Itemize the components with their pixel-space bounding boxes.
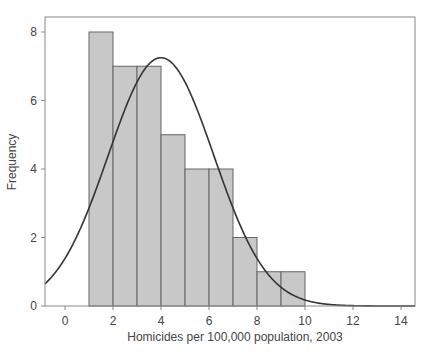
histogram-bar: [89, 32, 113, 306]
histogram-bar: [113, 66, 137, 306]
x-tick-label: 4: [158, 314, 165, 328]
x-axis-label: Homicides per 100,000 population, 2003: [127, 330, 343, 344]
x-tick-label: 12: [346, 314, 360, 328]
y-tick-label: 2: [30, 231, 37, 245]
histogram-bar: [161, 135, 185, 306]
y-tick-label: 6: [30, 94, 37, 108]
histogram-bar: [257, 272, 281, 306]
x-tick-label: 0: [62, 314, 69, 328]
x-tick-label: 2: [110, 314, 117, 328]
histogram-bar: [233, 238, 257, 307]
histogram-chart: 02468101214 02468 Homicides per 100,000 …: [0, 0, 430, 356]
y-tick-label: 4: [30, 162, 37, 176]
histogram-bars: [89, 32, 305, 306]
y-tick-label: 8: [30, 25, 37, 39]
histogram-bar: [185, 169, 209, 306]
x-tick-label: 14: [394, 314, 408, 328]
x-tick-label: 6: [206, 314, 213, 328]
y-tick-label: 0: [30, 299, 37, 313]
histogram-bar: [209, 169, 233, 306]
histogram-bar: [137, 66, 161, 306]
x-axis-ticks: 02468101214: [62, 306, 408, 328]
x-tick-label: 8: [254, 314, 261, 328]
histogram-bar: [281, 272, 305, 306]
y-axis-ticks: 02468: [30, 25, 45, 313]
y-axis-label: Frequency: [5, 134, 19, 191]
x-tick-label: 10: [298, 314, 312, 328]
